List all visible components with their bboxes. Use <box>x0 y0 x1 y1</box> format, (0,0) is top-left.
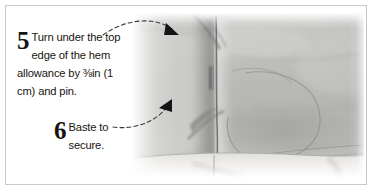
instruction-figure: 5Turn under the top edge of the hem allo… <box>0 0 373 191</box>
step-5-caption: 5Turn under the top edge of the hem allo… <box>17 27 129 99</box>
fabric-photo-illustration <box>132 13 364 178</box>
step-6-caption: 6Baste to secure. <box>54 117 124 153</box>
step-6-text: Baste to secure. <box>69 121 109 151</box>
step-5-number: 5 <box>17 28 30 53</box>
step-6-number: 6 <box>54 118 67 143</box>
fabric-photo <box>132 13 364 178</box>
step-5-text: Turn under the top edge of the hem allow… <box>17 31 120 97</box>
